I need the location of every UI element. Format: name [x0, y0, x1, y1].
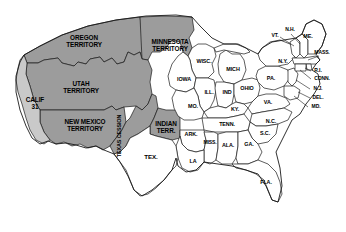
new-jersey-leader — [296, 80, 310, 89]
michigan-shape — [218, 50, 246, 84]
delaware-leader — [298, 92, 310, 98]
maryland-leader — [294, 96, 308, 107]
indiana-shape — [215, 82, 234, 108]
connecticut-shape — [295, 64, 306, 71]
alabama-shape — [216, 132, 238, 164]
minnesota-territory-shape — [140, 16, 194, 60]
utah-territory-shape — [26, 52, 152, 110]
michigan-upper-shape — [214, 44, 250, 54]
maryland-delaware-shape — [284, 86, 300, 100]
historical-us-map: OREGON TERRITORY UTAH TERRITORY NEW MEXI… — [0, 0, 346, 232]
map-vector-layer — [0, 0, 346, 232]
florida-shape — [232, 160, 282, 202]
